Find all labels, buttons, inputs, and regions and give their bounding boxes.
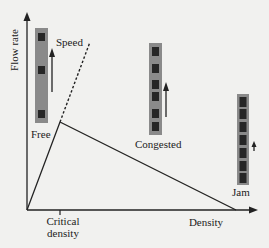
flow-density-curve	[27, 42, 236, 210]
congested-state: Congested	[135, 43, 182, 150]
jam-state: Jam	[232, 94, 257, 198]
speed-dashed-line	[60, 42, 90, 122]
traffic-flow-diagram: Flow rate Critical density Density Speed…	[0, 0, 269, 248]
car	[240, 173, 247, 183]
car	[240, 148, 247, 158]
critical-density-label-line2: density	[47, 227, 79, 239]
y-axis-label: Flow rate	[8, 29, 20, 71]
car	[152, 80, 159, 89]
car	[152, 47, 159, 56]
car	[152, 92, 159, 101]
car	[240, 109, 247, 119]
free-state: Speed Free	[31, 28, 83, 140]
congested-label: Congested	[135, 138, 182, 150]
car	[240, 97, 247, 107]
free-road-column	[35, 28, 48, 123]
congested-flow-line	[60, 122, 236, 210]
free-label: Free	[31, 128, 51, 140]
car	[152, 64, 159, 73]
critical-density-label-line1: Critical	[47, 215, 80, 227]
car	[38, 66, 45, 74]
jam-label: Jam	[232, 186, 250, 198]
x-axis: Critical density Density	[27, 207, 258, 240]
car	[152, 122, 159, 131]
car	[240, 122, 247, 132]
car	[240, 135, 247, 145]
x-axis-arrow-icon	[249, 207, 258, 214]
x-axis-label: Density	[189, 216, 224, 228]
y-axis-arrow-icon	[24, 12, 31, 21]
speed-label: Speed	[56, 36, 83, 48]
car	[38, 33, 45, 41]
car	[240, 161, 247, 171]
y-axis: Flow rate	[8, 12, 31, 210]
car	[38, 110, 45, 118]
car	[152, 109, 159, 118]
